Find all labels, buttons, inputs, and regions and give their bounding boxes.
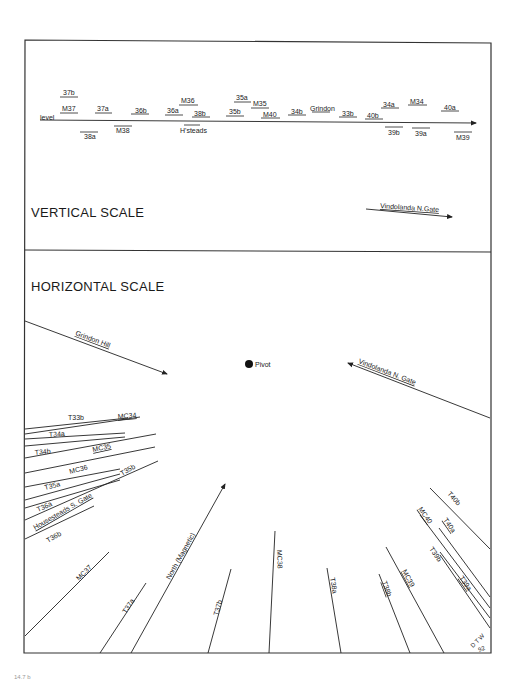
level-label-m38: M38 [116,127,130,134]
fan-label-mc38: MC38 [276,550,284,569]
vindolanda-legend-arrow: Vindolanda N.Gate [366,202,452,217]
fan-label-t37b: T37b [212,599,223,616]
fan-label-t40b: T40b [446,490,462,507]
bottom-fan: MC37 T37a T37b MC38 T38a T38b MC39 [25,531,444,653]
north-magnetic-arrow: North (Magnetic) [131,484,225,653]
fan-label-t33b: T33b [68,414,84,421]
fan-label-t40a: T40a [442,517,457,534]
above-axis-labels: 37b M37 37a 36b M36 36a 38b 35a M35 35b … [60,89,459,119]
author-signature: D T W 92 [469,632,486,653]
level-axis-arrow [40,120,476,123]
below-axis-labels: 38a M38 H'steads 39b 39a M39 [80,125,472,141]
level-label-33b: 33b [342,110,354,117]
right-fan: T39b T39a MC40 T40a T40b [417,488,490,628]
level-label-m36: M36 [181,97,195,104]
fan-label-mc36: MC36 [68,463,88,475]
figure-footnote: 14.7 b [14,674,31,680]
left-fan: T33b MC34 T34a T34b MC35 MC36 T35a T35b … [25,411,158,543]
level-label-35a: 35a [236,94,248,101]
level-label-m37: M37 [62,105,76,112]
fan-label-t37a: T37a [121,597,136,614]
fan-label-mc34: MC34 [117,411,136,420]
level-label-m35: M35 [253,100,267,107]
level-label-m40: M40 [263,111,277,118]
signature-year: 92 [477,645,486,653]
grindon-hill-arrow: Grindon Hill [25,321,167,374]
fan-label-t39b: T39b [428,546,443,563]
vindolanda-n-gate-arrow: Vindolanda N. Gate [348,357,490,418]
fan-label-t38b: T38b [381,580,393,597]
fan-label-mc37: MC37 [75,563,93,581]
level-label-grindon: Grindon [310,105,335,112]
fan-label-t35a: T35a [44,480,61,491]
grindon-hill-label: Grindon Hill [75,329,112,349]
level-label-40b: 40b [367,112,379,119]
level-label-37b: 37b [63,89,75,96]
fan-label-mc35: MC35 [92,442,112,453]
level-label-38a: 38a [84,133,96,140]
vertical-scale-heading: VERTICAL SCALE [31,205,144,220]
fan-label-t34a: T34a [49,430,66,438]
level-label-40a: 40a [444,104,456,111]
level-label-34b: 34b [291,108,303,115]
panel-divider [25,250,491,252]
horizontal-scale-panel: HORIZONTAL SCALE Pivot Grindon Hill Vind… [25,279,490,653]
pivot-dot-icon [245,360,253,368]
level-label-35b: 35b [229,108,241,115]
level-label-36b: 36b [135,107,147,114]
level-label-hsteads: H'steads [180,127,208,134]
level-label-38b: 38b [194,110,206,117]
horizontal-scale-heading: HORIZONTAL SCALE [31,279,164,294]
vindolanda-n-gate-label: Vindolanda N. Gate [358,357,418,385]
milecastle-alignment-diagram: level 37b M37 37a 36b M36 36a 38b 35a M3… [0,0,516,685]
level-label-m39: M39 [456,134,470,141]
fan-label-t34b: T34b [34,447,51,456]
level-label-39b: 39b [388,129,400,136]
fan-label-t36b: T36b [45,530,62,544]
level-label-34a: 34a [383,101,395,108]
vertical-scale-panel: level 37b M37 37a 36b M36 36a 38b 35a M3… [31,89,476,220]
level-label-37a: 37a [97,105,109,112]
level-label-39a: 39a [415,130,427,137]
level-label-36a: 36a [167,107,179,114]
pivot-point: Pivot [245,360,271,368]
pivot-label: Pivot [255,361,271,368]
north-magnetic-label: North (Magnetic) [165,531,197,580]
level-label-m34: M34 [410,98,424,105]
